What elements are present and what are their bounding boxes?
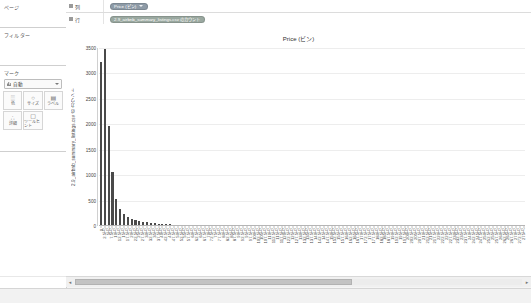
x-axis-tick-mark bbox=[458, 226, 459, 228]
y-axis-tick-label: 3000 bbox=[86, 71, 96, 76]
pill-price-bin[interactable]: Price (ビン) bbox=[110, 3, 148, 10]
x-axis-tick-mark bbox=[485, 226, 486, 228]
marks-type-dropdown[interactable]: 自動 bbox=[4, 79, 62, 89]
marks-color-button[interactable]: ░ 色 bbox=[3, 91, 22, 110]
bar[interactable] bbox=[115, 199, 117, 226]
filters-card[interactable]: フィルター bbox=[0, 28, 66, 66]
bar[interactable] bbox=[104, 49, 106, 226]
bar[interactable] bbox=[111, 172, 113, 226]
x-axis-tick-mark bbox=[500, 226, 501, 228]
status-bar bbox=[0, 288, 531, 303]
x-axis-tick-mark bbox=[385, 226, 386, 228]
x-axis-tick-mark bbox=[373, 226, 374, 228]
pill-count-measure[interactable]: 2.9_airbnb_summary_listings.csv のカウント bbox=[110, 16, 205, 23]
marks-color-label: 色 bbox=[11, 102, 15, 106]
plot-area[interactable] bbox=[99, 48, 525, 226]
x-axis-tick-mark bbox=[296, 226, 297, 228]
columns-shelf-dropzone[interactable]: Price (ビン) bbox=[104, 0, 531, 12]
marks-empty-slot bbox=[44, 111, 63, 128]
x-axis-tick-mark bbox=[262, 226, 263, 228]
x-axis-tick-mark bbox=[104, 226, 105, 228]
x-axis-tick-mark bbox=[393, 226, 394, 228]
x-axis-tick-mark bbox=[312, 226, 313, 228]
scroll-right-arrow-icon[interactable]: ▸ bbox=[523, 278, 531, 286]
x-axis-tick-mark bbox=[431, 226, 432, 228]
y-axis-title: 2.9_airbnb_summary_listings.csv のカウント bbox=[70, 48, 78, 226]
chart-view: Price (ビン) 2.9_airbnb_summary_listings.c… bbox=[66, 24, 531, 276]
bar[interactable] bbox=[100, 62, 102, 226]
x-axis-tick-mark bbox=[446, 226, 447, 228]
x-axis-tick-mark bbox=[450, 226, 451, 228]
y-axis-tick-label: 1500 bbox=[86, 147, 96, 152]
x-axis-tick-mark bbox=[404, 226, 405, 228]
x-axis-tick-mark bbox=[412, 226, 413, 228]
x-axis-tick-mark bbox=[481, 226, 482, 228]
x-axis-tick-mark bbox=[473, 226, 474, 228]
marks-size-button[interactable]: ○ サイズ bbox=[23, 91, 42, 110]
x-axis-tick-mark bbox=[466, 226, 467, 228]
bar-mark-icon bbox=[7, 82, 11, 86]
x-axis-tick-mark bbox=[316, 226, 317, 228]
x-axis-tick-mark bbox=[366, 226, 367, 228]
x-axis-tick-mark bbox=[496, 226, 497, 228]
x-axis-tick-mark bbox=[273, 226, 274, 228]
scrollbar-thumb[interactable] bbox=[75, 279, 352, 285]
marks-tooltip-label: ツールヒント bbox=[24, 120, 41, 128]
x-axis-tick-mark bbox=[277, 226, 278, 228]
x-axis-tick-mark bbox=[369, 226, 370, 228]
x-axis-tick-mark bbox=[281, 226, 282, 228]
x-axis-tick-mark bbox=[323, 226, 324, 228]
marks-detail-button[interactable]: ∴ 詳細 bbox=[3, 111, 22, 130]
pill-count-measure-text: 2.9_airbnb_summary_listings.csv のカウント bbox=[114, 16, 200, 22]
x-axis-tick-mark bbox=[293, 226, 294, 228]
x-axis-tick-mark bbox=[331, 226, 332, 228]
x-axis-tick-mark bbox=[108, 226, 109, 228]
horizontal-scrollbar[interactable]: ◂ ▸ bbox=[66, 276, 531, 287]
x-axis-tick-mark bbox=[443, 226, 444, 228]
x-axis-tick-mark bbox=[419, 226, 420, 228]
x-axis-tick-mark bbox=[254, 226, 255, 228]
x-axis-tick-mark bbox=[519, 226, 520, 228]
bar[interactable] bbox=[119, 209, 121, 226]
chevron-down-icon[interactable] bbox=[139, 5, 143, 7]
y-axis-tick-label: 2500 bbox=[86, 96, 96, 101]
x-axis-tick-mark bbox=[250, 226, 251, 228]
pages-card-title: ページ bbox=[0, 0, 66, 12]
marks-size-label: サイズ bbox=[27, 102, 39, 106]
y-axis-title-text: 2.9_airbnb_summary_listings.csv のカウント bbox=[71, 88, 77, 186]
marks-detail-label: 詳細 bbox=[9, 122, 17, 126]
marks-tooltip-button[interactable]: ▢ ツールヒント bbox=[23, 111, 42, 130]
x-axis-tick-mark bbox=[523, 226, 524, 228]
filters-card-title: フィルター bbox=[0, 28, 66, 40]
x-axis-tick-mark bbox=[327, 226, 328, 228]
x-axis-tick-mark bbox=[358, 226, 359, 228]
y-axis: 3500300025002000150010005000 bbox=[78, 48, 98, 226]
scroll-left-arrow-icon[interactable]: ◂ bbox=[66, 278, 74, 286]
columns-shelf[interactable]: 列 Price (ビン) bbox=[66, 0, 531, 13]
bar[interactable] bbox=[108, 126, 110, 226]
x-axis-tick-mark bbox=[427, 226, 428, 228]
columns-icon bbox=[69, 4, 73, 8]
x-axis-tick-mark bbox=[504, 226, 505, 228]
y-axis-tick-label: 1000 bbox=[86, 173, 96, 178]
chevron-down-icon bbox=[55, 83, 59, 85]
y-axis-line bbox=[97, 48, 98, 226]
plot-wrapper: 2.9_airbnb_summary_listings.csv のカウント 35… bbox=[66, 48, 525, 252]
pages-card[interactable]: ページ bbox=[0, 0, 66, 28]
x-axis-tick-mark bbox=[408, 226, 409, 228]
marks-label-button[interactable]: ▤ ラベル bbox=[44, 91, 63, 110]
marks-label-label: ラベル bbox=[47, 102, 59, 106]
x-axis-tick-mark bbox=[350, 226, 351, 228]
x-axis-tick-mark bbox=[389, 226, 390, 228]
x-axis-tick-mark bbox=[477, 226, 478, 228]
x-axis-tick-mark bbox=[258, 226, 259, 228]
scrollbar-track[interactable] bbox=[75, 279, 522, 285]
marks-buttons-grid: ░ 色 ○ サイズ ▤ ラベル ∴ 詳細 ▢ ツールヒント bbox=[0, 91, 66, 130]
columns-shelf-label: 列 bbox=[75, 3, 80, 10]
x-axis-tick-mark bbox=[339, 226, 340, 228]
x-axis-tick-mark bbox=[492, 226, 493, 228]
y-axis-tick-label: 0 bbox=[93, 224, 96, 229]
x-axis-tick-label: 275万 bbox=[521, 229, 527, 240]
y-axis-tick-label: 3500 bbox=[86, 46, 96, 51]
